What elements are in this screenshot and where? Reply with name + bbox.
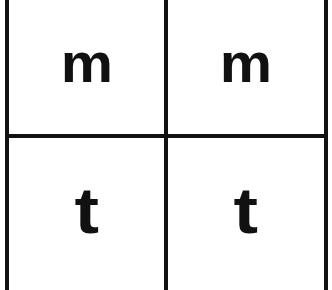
grid-cell-top-left: m	[9, 0, 164, 134]
grid-cell-bottom-right: t	[168, 138, 324, 290]
letter-grid: m m t t	[0, 0, 332, 290]
cell-letter: m	[220, 35, 272, 91]
grid-line-right	[324, 0, 328, 290]
cell-letter: t	[234, 179, 259, 243]
cell-letter: t	[74, 179, 99, 243]
grid-cell-bottom-left: t	[9, 138, 164, 290]
grid-cell-top-right: m	[168, 0, 324, 134]
cell-letter: m	[60, 35, 112, 91]
